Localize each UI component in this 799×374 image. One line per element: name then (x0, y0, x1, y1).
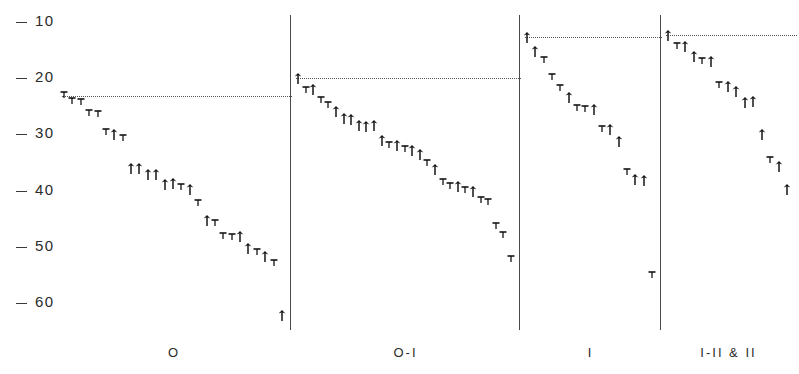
x-axis-label-i: I (521, 345, 661, 360)
x-axis-label-o: O (104, 345, 244, 360)
x-axis-group-labels: OO-III-II & II (0, 0, 799, 374)
scatter-figure: 102030405060 OO-III-II & II (0, 0, 799, 374)
x-axis-label-o-i: O-I (336, 345, 476, 360)
x-axis-label-i-ii-ii: I-II & II (659, 345, 799, 360)
